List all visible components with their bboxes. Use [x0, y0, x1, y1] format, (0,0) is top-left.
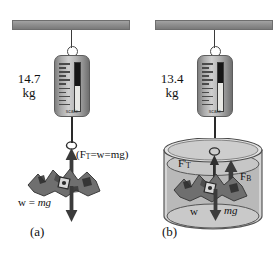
tension-label-a-open: (F [76, 148, 86, 160]
weight-label-b-w: w [190, 205, 198, 217]
spring-scale-b[interactable]: scale [197, 55, 233, 117]
weight-label-a-w: w = [18, 196, 35, 208]
tension-prime-label-b-sub: T [186, 161, 191, 170]
scale-gauge-fill-b [218, 63, 223, 83]
scale-reading-unit-a: kg [8, 86, 50, 100]
ceiling-support-bar-b [155, 20, 273, 30]
scale-tick-marks-a [59, 63, 70, 107]
scale-reading-value-b: 13.4 [161, 71, 184, 86]
panel-a: scale 14.7 kg [0, 0, 140, 253]
weight-label-b-w-text: w [190, 205, 198, 217]
scale-gauge-fill-a [75, 63, 80, 86]
scale-reading-value-a: 14.7 [18, 71, 41, 86]
panel-b: scale 13.4 kg [140, 0, 280, 253]
scale-reading-a: 14.7 kg [8, 72, 50, 99]
scale-gauge-b [217, 62, 224, 112]
scale-word-label-a: scale [55, 108, 89, 114]
scale-reading-unit-b: kg [151, 86, 193, 100]
scale-tick-marks-b [202, 63, 213, 107]
spring-scale-a[interactable]: scale [54, 55, 90, 117]
tension-prime-label-b-text: F' [178, 157, 186, 169]
tension-prime-label-b: F'T [178, 157, 191, 170]
scale-word-label-b: scale [198, 108, 232, 114]
tension-label-a-rest: =w=mg) [90, 148, 128, 160]
ceiling-support-bar-a [12, 20, 130, 30]
scale-gauge-a [74, 62, 81, 112]
panel-caption-b: (b) [162, 224, 177, 240]
figure-canvas: scale 14.7 kg [0, 0, 280, 253]
weight-label-a-mg: mg [38, 196, 51, 208]
panel-caption-a: (a) [30, 224, 44, 240]
weight-label-b-mg-text: mg [224, 204, 237, 216]
weight-label-b-mg: mg [224, 204, 237, 216]
weight-force-arrow-a [65, 186, 78, 222]
buoyant-label-b-sub: B [246, 174, 251, 183]
scale-reading-b: 13.4 kg [151, 72, 193, 99]
tension-label-a: (FT=w=mg) [76, 148, 128, 161]
weight-force-arrow-b [209, 189, 222, 221]
weight-label-a: w = mg [18, 196, 51, 208]
buoyant-label-b: FB [240, 170, 251, 183]
